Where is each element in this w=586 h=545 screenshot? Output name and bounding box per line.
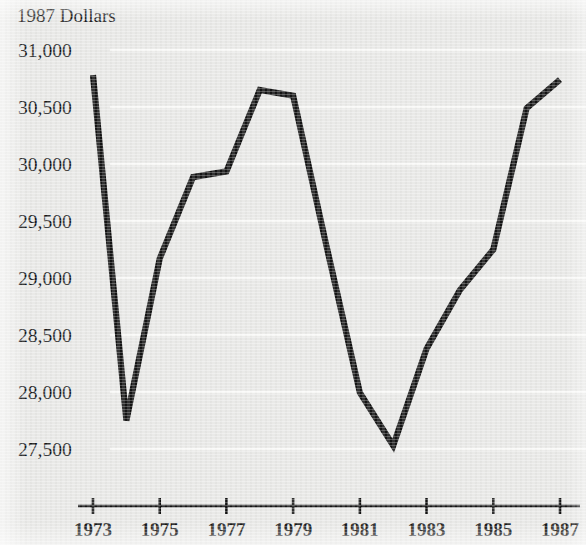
y-axis-tick-label: 28,000 <box>18 382 72 403</box>
x-axis-tick-label: 1985 <box>474 519 512 540</box>
y-axis-tick-label: 27,500 <box>18 439 72 460</box>
y-axis-title: 1987 Dollars <box>17 5 116 26</box>
x-axis-tick-label: 1973 <box>74 519 112 540</box>
gridlines-group <box>110 50 586 449</box>
x-axis-tick-label: 1977 <box>207 519 246 540</box>
x-axis-tick-label: 1987 <box>541 519 580 540</box>
y-axis-tick-label: 29,500 <box>18 211 72 232</box>
y-axis-tick-label: 29,000 <box>18 268 72 289</box>
y-axis-tick-label: 30,500 <box>18 97 72 118</box>
y-axis-tick-label: 28,500 <box>18 325 72 346</box>
x-axis-tick-label: 1979 <box>274 519 312 540</box>
chart-figure: 31,00030,50030,00029,50029,00028,50028,0… <box>0 0 586 545</box>
x-axis-tick-label: 1975 <box>141 519 179 540</box>
y-axis-tick-labels: 31,00030,50030,00029,50029,00028,50028,0… <box>18 40 72 460</box>
line-chart: 31,00030,50030,00029,50029,00028,50028,0… <box>0 0 586 545</box>
data-series-line <box>93 75 560 446</box>
y-axis-tick-label: 31,000 <box>18 40 72 61</box>
x-axis-tick-label: 1981 <box>341 519 379 540</box>
y-axis-tick-label: 30,000 <box>18 154 72 175</box>
x-axis-tick-label: 1983 <box>408 519 446 540</box>
x-axis-tick-labels: 19731975197719791981198319851987 <box>74 519 580 540</box>
